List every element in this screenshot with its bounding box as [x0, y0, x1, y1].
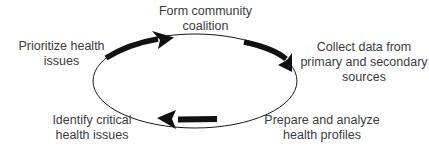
step-label-line: Form community: [148, 4, 263, 19]
step-label-line: issues: [14, 54, 109, 69]
step-form-community-coalition: Form community coalition: [148, 4, 263, 34]
step-prepare-analyze: Prepare and analyze health profiles: [262, 113, 382, 143]
step-collect-data: Collect data from primary and secondary …: [300, 40, 428, 85]
step-label-line: health profiles: [262, 128, 382, 143]
step-label-line: primary and secondary: [300, 55, 428, 70]
step-label-line: Prepare and analyze: [262, 113, 382, 128]
step-label-line: sources: [300, 70, 428, 85]
step-label-line: health issues: [37, 128, 147, 143]
step-prioritize-health: Prioritize health issues: [14, 39, 109, 69]
step-label-line: coalition: [148, 19, 263, 34]
arrow-form-to-collect: [244, 42, 292, 72]
arrow-prioritize-to-form: [106, 31, 174, 58]
arrow-shaft: [106, 39, 158, 58]
step-identify-critical: Identify critical health issues: [37, 113, 147, 143]
arrow-shaft: [244, 42, 286, 59]
step-label-line: Collect data from: [300, 40, 428, 55]
arrow-shaft: [178, 119, 217, 120]
step-label-line: Prioritize health: [14, 39, 109, 54]
step-label-line: Identify critical: [37, 113, 147, 128]
